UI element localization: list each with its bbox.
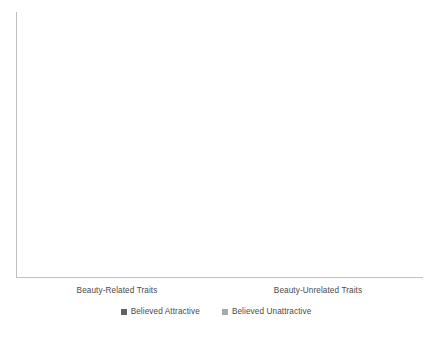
plot-area: [0, 0, 432, 282]
legend-item-believed-unattractive[interactable]: Believed Unattractive: [222, 308, 311, 316]
legend-label-believed-unattractive: Believed Unattractive: [232, 308, 311, 316]
legend-swatch-icon-believed-unattractive: [222, 309, 228, 315]
bar-chart: Beauty-Related Traits Beauty-Unrelated T…: [0, 0, 432, 337]
x-axis-category-label-1: Beauty-Unrelated Traits: [260, 286, 376, 295]
x-axis-category-label-0: Beauty-Related Traits: [57, 286, 177, 295]
bar-beauty-related-believed-unattractive: [117, 188, 177, 222]
legend-swatch-icon-believed-attractive: [121, 309, 127, 315]
y-axis-line: [16, 12, 17, 278]
legend-item-believed-attractive[interactable]: Believed Attractive: [121, 308, 200, 316]
bar-beauty-related-believed-attractive: [57, 0, 117, 222]
chart-legend: Believed Attractive Believed Unattractiv…: [0, 308, 432, 316]
x-axis-line: [16, 277, 423, 278]
cut-off-caption: [4, 330, 424, 337]
bar-beauty-unrelated-believed-unattractive: [318, 86, 376, 222]
legend-label-believed-attractive: Believed Attractive: [131, 308, 200, 316]
bar-beauty-unrelated-believed-attractive: [260, 86, 318, 222]
